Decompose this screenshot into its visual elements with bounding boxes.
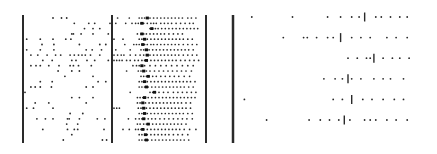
spike-dot (113, 38, 115, 40)
spike-dot (173, 139, 175, 141)
spike-dot (399, 16, 401, 18)
spike-dot (188, 139, 190, 141)
spike-dot (292, 16, 294, 18)
spike-dot (329, 119, 331, 121)
raster-row (138, 139, 189, 142)
spike-dot (178, 75, 180, 77)
event-marker (147, 75, 150, 78)
spike-dot (150, 81, 152, 83)
spike-dot (185, 107, 187, 109)
spike-dot (179, 129, 181, 131)
spike-dot (137, 107, 139, 109)
raster-row (113, 38, 193, 41)
spike-dot (155, 139, 157, 141)
raster-row (126, 70, 192, 73)
spike-dot (106, 139, 108, 141)
spike-dot (168, 81, 170, 83)
spike-dot (53, 49, 55, 51)
spike-dot (150, 134, 152, 136)
spike-dot (173, 123, 175, 125)
spike-dot (153, 33, 155, 35)
spike-dot (94, 22, 96, 24)
spike-dot (332, 37, 334, 39)
spike-dot (26, 49, 28, 51)
spike-dot (157, 81, 159, 83)
spike-dot (154, 134, 156, 136)
spike-dot (168, 118, 170, 120)
spike-dot (153, 17, 155, 19)
spike-dot (178, 54, 180, 56)
spike-dot (159, 49, 161, 51)
spike-dot (55, 54, 57, 56)
spike-dot (113, 107, 115, 109)
spike-dot (158, 91, 160, 93)
spike-dot (173, 118, 175, 120)
spike-dot (113, 60, 115, 62)
spike-dot (41, 44, 43, 46)
spike-dot (182, 54, 184, 56)
spike-dot (149, 70, 151, 72)
spike-dot (187, 17, 189, 19)
spike-dot (168, 113, 170, 115)
spike-dot (369, 57, 371, 59)
spike-dot (117, 54, 119, 56)
spike-dot (158, 86, 160, 88)
spike-dot (395, 119, 397, 121)
spike-dot (78, 54, 80, 56)
spike-dot (141, 81, 143, 83)
spike-dot (176, 139, 178, 141)
spike-dot (60, 54, 62, 56)
spike-dot (178, 107, 180, 109)
spike-dot (193, 60, 195, 62)
spike-dot (82, 113, 84, 115)
spike-dot (163, 102, 165, 104)
spike-dot (91, 49, 93, 51)
spike-dot (154, 70, 156, 72)
spike-dot (104, 118, 106, 120)
spike-dot (137, 102, 139, 104)
spike-dot (186, 91, 188, 93)
spike-dot (356, 57, 358, 59)
spike-dot (166, 49, 168, 51)
spike-dot (134, 60, 136, 62)
spike-dot (181, 49, 183, 51)
spike-dot (177, 91, 179, 93)
spike-dot (195, 17, 197, 19)
spike-dot (183, 129, 185, 131)
raster-row (62, 139, 107, 141)
spike-dot (148, 49, 150, 51)
spike-dot (169, 139, 171, 141)
spike-dot (135, 54, 137, 56)
spike-dot (141, 139, 143, 141)
spike-dot (164, 60, 166, 62)
spike-dot (115, 22, 117, 24)
spike-dot (90, 65, 92, 67)
raster-row (26, 107, 54, 109)
spike-dot (137, 60, 139, 62)
spike-dot (192, 65, 194, 67)
spike-dot (154, 129, 156, 131)
spike-dot (122, 129, 124, 131)
spike-dot (129, 54, 131, 56)
spike-dot (358, 16, 360, 18)
spike-dot (181, 70, 183, 72)
spike-dot (139, 102, 141, 104)
raster-row (30, 65, 92, 67)
spike-dot (152, 49, 154, 51)
spike-dot (191, 97, 193, 99)
spike-dot (166, 102, 168, 104)
raster-row (137, 101, 192, 104)
spike-dot (406, 119, 408, 121)
spike-dot (182, 28, 184, 30)
spike-dot (177, 118, 179, 120)
spike-dot (155, 65, 157, 67)
spike-dot (177, 33, 179, 35)
spike-dot (107, 33, 109, 35)
spike-dot (145, 102, 147, 104)
spike-dot (138, 139, 140, 141)
spike-dot (155, 75, 157, 77)
spike-dot (156, 107, 158, 109)
spike-dot (171, 107, 173, 109)
spike-dot (143, 49, 145, 51)
spike-dot (96, 118, 98, 120)
